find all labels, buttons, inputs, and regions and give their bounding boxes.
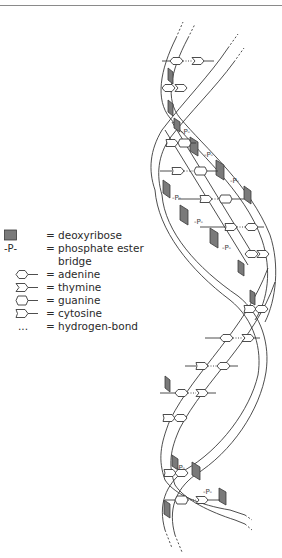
phosphate-icon: -P- — [4, 242, 40, 255]
legend-item-deoxyribose: = deoxyribose — [0, 229, 150, 242]
legend-label-adenine: adenine — [58, 268, 100, 281]
legend-label-deoxyribose: deoxyribose — [58, 229, 122, 242]
guanine-icon — [4, 294, 40, 307]
legend: = deoxyribose -P- = phosphate ester brid… — [0, 229, 150, 333]
svg-text:-P-: -P- — [172, 194, 182, 202]
legend-item-phosphate-cont: bridge — [0, 255, 150, 268]
legend-label-thymine: thymine — [58, 281, 101, 294]
svg-text:-P-: -P- — [222, 244, 232, 252]
legend-label-hydrogen-bond: hydrogen-bond — [58, 320, 138, 333]
thymine-icon — [4, 281, 40, 294]
deoxyribose-icon — [4, 229, 40, 242]
legend-label-phosphate: phosphate ester — [58, 242, 144, 255]
svg-text:-P-: -P- — [203, 488, 213, 496]
legend-item-hydrogen-bond: ... = hydrogen-bond — [0, 320, 150, 333]
legend-item-cytosine: = cytosine — [0, 307, 150, 320]
legend-item-guanine: = guanine — [0, 294, 150, 307]
legend-item-phosphate: -P- = phosphate ester — [0, 242, 150, 255]
svg-text:-P-: -P- — [194, 218, 204, 226]
svg-text:-P-: -P- — [230, 177, 240, 185]
svg-text:-P-: -P- — [204, 151, 214, 159]
legend-item-thymine: = thymine — [0, 281, 150, 294]
legend-item-adenine: = adenine — [0, 268, 150, 281]
legend-label-cytosine: cytosine — [58, 307, 102, 320]
svg-text:-P-: -P- — [181, 128, 191, 136]
deoxyribose-units — [163, 68, 255, 518]
legend-label-guanine: guanine — [58, 294, 100, 307]
phosphate-labels: -P- -P- -P- -P- -P- -P- -P- -P- — [172, 128, 240, 496]
adenine-icon — [4, 268, 40, 281]
legend-label-bridge: bridge — [58, 255, 92, 268]
cytosine-icon — [4, 307, 40, 320]
